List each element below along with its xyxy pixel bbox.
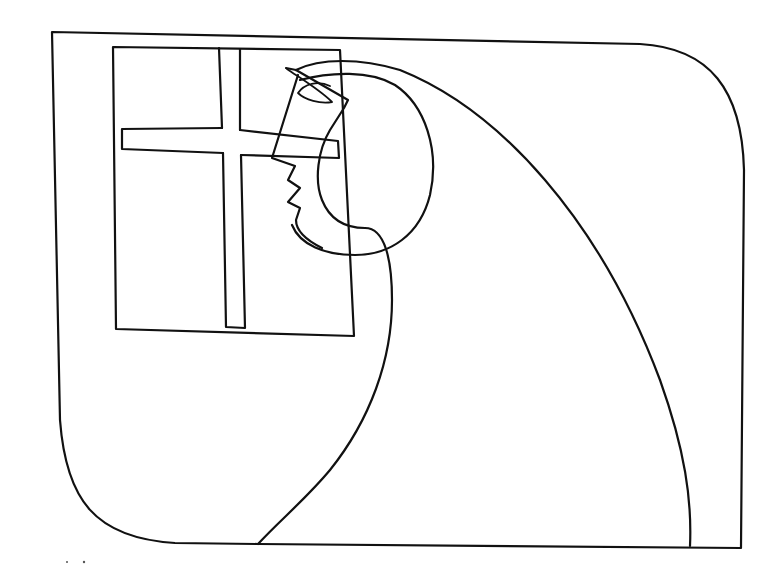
outer-frame [52, 32, 744, 548]
stray-mark [83, 561, 85, 563]
line-drawing [0, 0, 780, 578]
window-cross-vertical [219, 48, 245, 328]
stray-mark [66, 561, 68, 563]
figure-hood [296, 61, 690, 546]
window-cross-horizontal [122, 128, 339, 158]
